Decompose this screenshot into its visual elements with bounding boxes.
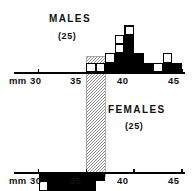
histogram-cell xyxy=(125,35,134,43)
histogram-cell xyxy=(125,54,134,62)
x-tick-top-40: 40 xyxy=(117,76,129,86)
histogram-cell xyxy=(106,54,115,62)
histogram-cell xyxy=(87,63,96,71)
x-tick-top-30: 30 xyxy=(30,76,42,86)
histogram-cell xyxy=(115,45,124,53)
x-tick-top-35: 35 xyxy=(70,76,82,86)
x-tick-bottom-35: 35 xyxy=(70,176,82,186)
x-tick-mark xyxy=(86,169,87,173)
histogram-cell xyxy=(87,173,96,181)
x-tick-mark xyxy=(133,169,134,173)
histogram-cell xyxy=(173,63,182,71)
axis-unit-bottom: mm xyxy=(9,176,26,186)
histogram-cell xyxy=(115,63,124,71)
histogram-cell xyxy=(163,54,172,62)
x-tick-bottom-45: 45 xyxy=(168,176,180,186)
series-count-females: (25) xyxy=(125,122,143,131)
x-tick-mark xyxy=(38,169,39,173)
histogram-cell xyxy=(125,63,134,71)
x-axis-top xyxy=(14,72,185,74)
chart-canvas xyxy=(0,0,195,191)
histogram-cell xyxy=(135,54,144,62)
histogram-cell xyxy=(115,35,124,43)
x-tick-bottom-30: 30 xyxy=(30,176,42,186)
x-tick-bottom-40: 40 xyxy=(117,176,129,186)
histogram-cell xyxy=(125,45,134,53)
x-tick-top-45: 45 xyxy=(168,76,180,86)
histogram-cell xyxy=(106,63,115,71)
axis-unit-top: mm xyxy=(9,76,26,86)
histogram-cell xyxy=(49,182,58,190)
histogram-cell xyxy=(154,63,163,71)
histogram-cell xyxy=(58,182,67,190)
histogram-cell xyxy=(96,63,105,71)
histogram-cell xyxy=(125,26,134,34)
histogram-cell xyxy=(49,173,58,181)
series-males xyxy=(87,26,182,72)
histogram-cell xyxy=(135,63,144,71)
histogram-cell xyxy=(87,182,96,190)
x-tick-mark xyxy=(38,69,39,73)
histogram-cell xyxy=(144,63,153,71)
histogram-svg xyxy=(0,0,195,191)
histogram-cell xyxy=(115,54,124,62)
series-count-males: (25) xyxy=(58,32,76,41)
x-tick-mark xyxy=(181,169,182,173)
histogram-cell xyxy=(58,173,67,181)
series-label-males: MALES xyxy=(49,14,91,24)
overlap-band xyxy=(86,56,105,176)
histogram-figure: MALES (25) FEMALES (25) mm 30 35 40 45 m… xyxy=(0,0,195,191)
histogram-cell xyxy=(96,173,105,181)
histogram-cell xyxy=(163,63,172,71)
series-label-females: FEMALES xyxy=(108,105,166,115)
